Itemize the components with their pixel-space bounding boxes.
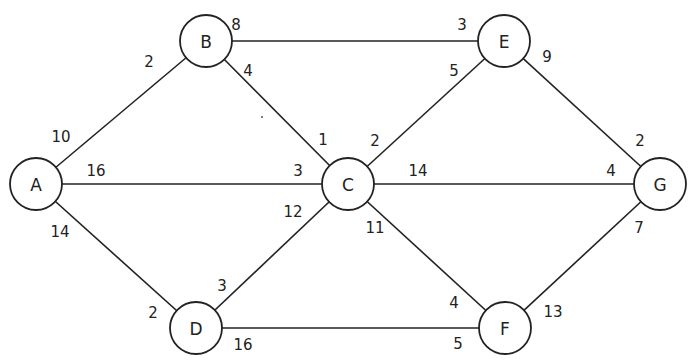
edge-a-b — [36, 41, 206, 184]
node-f: F — [479, 302, 531, 354]
node-e: E — [478, 15, 530, 67]
edge-weight-label: 2 — [635, 132, 645, 150]
edge-weight-label: 16 — [86, 162, 105, 180]
edge-weight-label: 14 — [50, 223, 69, 241]
edge-a-d — [36, 184, 196, 328]
edge-weight-label: 16 — [233, 336, 252, 354]
edge-weight-label: 2 — [148, 304, 158, 322]
edge-weight-label: 9 — [542, 48, 552, 66]
node-b: B — [180, 15, 232, 67]
edge-c-d — [196, 184, 348, 328]
edge-weight-label: 7 — [634, 219, 644, 237]
node-label: F — [500, 319, 510, 339]
scan-speck — [261, 116, 263, 118]
edge-weight-label: 2 — [370, 132, 380, 150]
node-label: E — [499, 32, 510, 52]
weighted-graph-diagram: 10216314283412514412311492713165 ABCDEFG — [0, 0, 696, 364]
edge-weight-label: 11 — [365, 219, 384, 237]
node-label: D — [189, 319, 202, 339]
node-label: G — [653, 175, 666, 195]
node-g: G — [634, 158, 686, 210]
edge-c-f — [348, 184, 505, 328]
edge-weight-label: 12 — [283, 203, 302, 221]
edge-weight-label: 4 — [243, 62, 253, 80]
edge-weight-label: 14 — [408, 162, 427, 180]
node-a: A — [10, 158, 62, 210]
edge-weight-label: 5 — [449, 62, 459, 80]
edge-b-c — [206, 41, 348, 184]
edge-weight-label: 1 — [318, 131, 328, 149]
edge-weight-label: 8 — [231, 16, 241, 34]
node-c: C — [322, 158, 374, 210]
edge-weight-label: 4 — [606, 162, 616, 180]
edge-weight-label: 13 — [543, 303, 562, 321]
edge-weight-label: 3 — [217, 277, 227, 295]
edge-weight-label: 4 — [449, 294, 459, 312]
edge-weight-label: 10 — [51, 128, 70, 146]
edge-g-f — [505, 184, 660, 328]
node-label: A — [30, 175, 42, 195]
node-label: B — [200, 32, 212, 52]
edge-e-g — [504, 41, 660, 184]
node-d: D — [170, 302, 222, 354]
node-label: C — [342, 175, 354, 195]
edge-weight-label: 5 — [453, 335, 463, 353]
edge-weight-label: 3 — [457, 16, 467, 34]
edge-weight-label: 2 — [144, 53, 154, 71]
edge-weight-label: 3 — [293, 162, 303, 180]
